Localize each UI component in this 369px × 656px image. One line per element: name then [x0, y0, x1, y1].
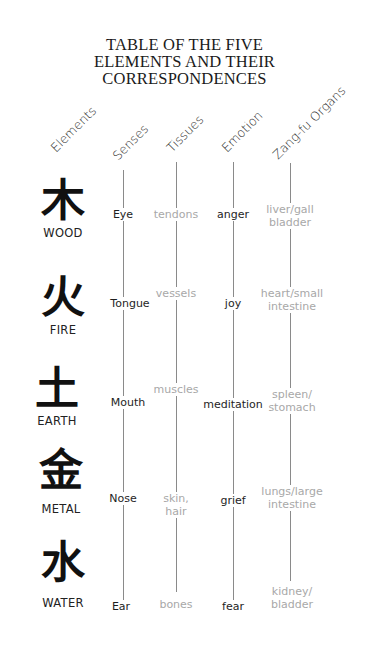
wood-character-icon: 木 — [18, 178, 108, 224]
title-line-3: CORRESPONDENCES — [0, 70, 369, 87]
organ-cell: spleen/ stomach — [267, 388, 316, 414]
element-label: WATER — [18, 596, 108, 610]
header-tissues: Tissues — [163, 112, 206, 155]
element-label: FIRE — [18, 323, 108, 337]
diagram-title: TABLE OF THE FIVE ELEMENTS AND THEIR COR… — [0, 36, 369, 87]
organ-cell: heart/small intestine — [260, 287, 324, 313]
emotion-cell: joy — [224, 297, 242, 310]
organ-line-2: intestine — [261, 300, 323, 313]
organ-line-1: spleen/ — [268, 388, 315, 401]
organ-cell: kidney/ bladder — [270, 585, 314, 611]
earth-character-icon: 土 — [12, 366, 102, 412]
organ-line-1: heart/small — [261, 287, 323, 300]
senses-column-line — [123, 170, 124, 610]
tissue-cell: vessels — [155, 287, 197, 300]
sense-cell: Eye — [112, 208, 134, 221]
element-label: METAL — [16, 502, 106, 516]
header-emotion: Emotion — [218, 108, 265, 155]
organ-line-2: bladder — [271, 598, 313, 611]
organ-line-2: stomach — [268, 401, 315, 414]
emotion-cell: grief — [219, 494, 246, 507]
water-character-icon: 水 — [18, 540, 108, 586]
element-water: 水 WATER — [18, 540, 108, 610]
header-senses: Senses — [109, 121, 151, 163]
element-earth: 土 EARTH — [12, 366, 102, 428]
organ-cell: lungs/large intestine — [260, 485, 323, 511]
organ-line-2: bladder — [266, 216, 313, 229]
tissue-cell: muscles — [152, 383, 199, 396]
tissue-cell: skin, hair — [162, 492, 190, 518]
element-fire: 火 FIRE — [18, 275, 108, 337]
title-line-2: ELEMENTS AND THEIR — [0, 53, 369, 70]
tissue-line-2: hair — [163, 505, 189, 518]
sense-cell: Ear — [111, 600, 131, 613]
element-wood: 木 WOOD — [18, 178, 108, 240]
sense-cell: Nose — [108, 492, 137, 505]
tissues-column-line — [176, 162, 177, 592]
sense-cell: Mouth — [110, 396, 146, 409]
title-line-1: TABLE OF THE FIVE — [0, 36, 369, 53]
organ-line-1: liver/gall — [266, 203, 313, 216]
element-label: EARTH — [12, 414, 102, 428]
organ-line-2: intestine — [261, 498, 322, 511]
organ-line-1: lungs/large — [261, 485, 322, 498]
tissue-cell: bones — [158, 598, 193, 611]
header-organs: Zang-fu Organs — [269, 83, 348, 162]
tissue-cell: tendons — [153, 208, 199, 221]
element-label: WOOD — [18, 226, 108, 240]
metal-character-icon: 金 — [16, 448, 106, 494]
organ-line-1: kidney/ — [271, 585, 313, 598]
element-metal: 金 METAL — [16, 448, 106, 516]
tissue-line-1: skin, — [163, 492, 189, 505]
sense-cell: Tongue — [109, 297, 150, 310]
fire-character-icon: 火 — [18, 275, 108, 321]
emotion-cell: anger — [216, 208, 250, 221]
organ-cell: liver/gall bladder — [265, 203, 314, 229]
emotion-cell: fear — [221, 600, 245, 613]
emotion-column-line — [233, 162, 234, 602]
header-elements: Elements — [47, 103, 99, 155]
emotion-cell: meditation — [202, 398, 264, 411]
